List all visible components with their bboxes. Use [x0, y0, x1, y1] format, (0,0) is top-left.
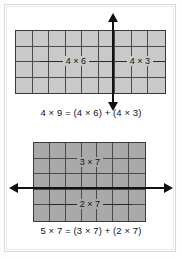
label-3x7-text: 3 × 7 [77, 157, 103, 167]
grid-cell [148, 78, 165, 94]
caption-5x7: 5 × 7 = (3 × 7) + (2 × 7) [0, 225, 182, 236]
grid-cell [148, 31, 165, 47]
grid-cell [16, 31, 33, 47]
grid-cell [49, 78, 66, 94]
grid-cell [129, 143, 145, 159]
grid-cell [34, 159, 50, 175]
grid-cell [66, 78, 83, 94]
leader-line-left [40, 61, 63, 62]
leader-line-right [89, 61, 112, 62]
grid-cell [82, 31, 99, 47]
label-2x7: 2 × 7 [48, 199, 132, 209]
grid-cell [115, 31, 132, 47]
grid-cell [132, 31, 149, 47]
grid-cell [49, 31, 66, 47]
grid-cell [16, 78, 33, 94]
label-3x7: 3 × 7 [57, 157, 123, 167]
grid-cell [115, 78, 132, 94]
grid-cell [34, 143, 50, 159]
grid-cell [16, 47, 33, 63]
label-4x3-text: 4 × 3 [127, 56, 153, 66]
leader-line-right [153, 61, 165, 62]
leader-line-left [115, 61, 127, 62]
arrow-shaft [112, 20, 114, 104]
grid-cell [33, 78, 50, 94]
caption-4x9: 4 × 9 = (4 × 6) + (4 × 3) [0, 107, 182, 118]
arrow-head-right-icon [164, 183, 173, 193]
grid-cell [66, 31, 83, 47]
arrow-shaft [16, 187, 166, 189]
label-4x6-text: 4 × 6 [63, 56, 89, 66]
grid-cell [16, 62, 33, 78]
grid-cell [33, 31, 50, 47]
grid-cell [132, 78, 149, 94]
leader-line-right [103, 204, 132, 205]
grid-cell [129, 159, 145, 175]
array-grid-5x7 [33, 142, 146, 222]
figure-5x7: 3 × 7 2 × 7 5 × 7 = (3 × 7) + (2 × 7) [0, 130, 182, 242]
label-2x7-text: 2 × 7 [77, 199, 103, 209]
leader-line-left [48, 204, 77, 205]
label-4x6: 4 × 6 [40, 56, 112, 66]
figure-4x9: 4 × 6 4 × 3 4 × 9 = (4 × 6) + (4 × 3) [0, 0, 182, 118]
diagram-page: 4 × 6 4 × 3 4 × 9 = (4 × 6) + (4 × 3) 3 … [0, 0, 182, 258]
grid-cell [82, 78, 99, 94]
label-4x3: 4 × 3 [115, 56, 165, 66]
